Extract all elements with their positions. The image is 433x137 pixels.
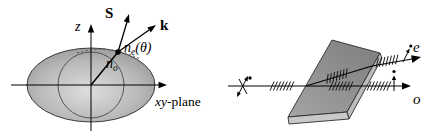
no-base: n bbox=[106, 56, 113, 71]
o-ray-label: o bbox=[413, 91, 421, 107]
extraordinary-ray-arrowhead bbox=[411, 55, 421, 63]
ne-args: (θ) bbox=[135, 40, 152, 56]
o-ray-dot bbox=[392, 70, 395, 73]
z-axis-arrowhead bbox=[88, 24, 94, 33]
o-ray-polarization-marker bbox=[392, 70, 396, 91]
no-sub: o bbox=[113, 63, 118, 73]
unpolarized-dot bbox=[248, 76, 251, 79]
z-axis-label: z bbox=[74, 19, 81, 34]
e-ray-dot bbox=[409, 44, 412, 47]
diagram-svg: z S k ne(θ) no xy-plane bbox=[0, 0, 433, 137]
ne-theta-label: ne(θ) bbox=[124, 40, 152, 57]
k-vector-label: k bbox=[160, 17, 169, 33]
figure-canvas: z S k ne(θ) no xy-plane bbox=[0, 0, 433, 137]
ordinary-ray-arrowhead bbox=[402, 83, 411, 90]
xy-plane-label: xy-plane bbox=[154, 94, 201, 109]
double-refraction-figure: e o bbox=[228, 39, 421, 124]
xy-plane-italic: xy bbox=[154, 94, 167, 109]
horizontal-axis-arrowhead bbox=[159, 82, 168, 88]
crystal-slab bbox=[288, 40, 382, 124]
e-ray-label: e bbox=[413, 39, 420, 55]
index-ellipsoid-figure: z S k ne(θ) no xy-plane bbox=[11, 5, 201, 131]
s-vector-label: S bbox=[105, 5, 113, 21]
ne-base: n bbox=[124, 40, 131, 55]
xy-plane-rest: -plane bbox=[167, 94, 201, 109]
